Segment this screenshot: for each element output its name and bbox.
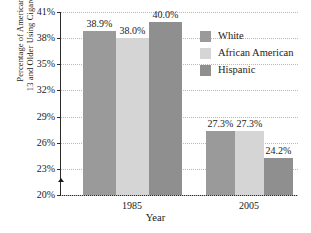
legend-swatch-white — [200, 31, 211, 42]
bar-label-1985-african-american: 38.0% — [120, 25, 146, 36]
ytick-38 — [57, 38, 61, 39]
ytick-35 — [57, 64, 61, 65]
ytick-label-26: 26% — [37, 138, 55, 148]
ytick-label-29: 29% — [37, 112, 55, 122]
y-axis-title-line1: Percentage of Americans — [15, 0, 25, 91]
bar-chart: Percentage of Americans 13 and Older Usi… — [0, 0, 311, 233]
ytick-label-23: 23% — [37, 164, 55, 174]
legend-item-african-american[interactable]: African American — [200, 47, 310, 59]
bar-label-1985-hispanic: 40.0% — [153, 9, 179, 20]
ytick-label-41: 41% — [37, 7, 55, 17]
ytick-label-38: 38% — [37, 33, 55, 43]
ytick-41 — [57, 12, 61, 13]
ytick-label-32: 32% — [37, 85, 55, 95]
ytick-32 — [57, 90, 61, 91]
y-axis-title: Percentage of Americans 13 and Older Usi… — [12, 0, 38, 123]
ytick-label-35: 35% — [37, 59, 55, 69]
bar-1985-hispanic[interactable]: 40.0% — [149, 22, 182, 195]
bar-2005-white[interactable]: 27.3% — [206, 131, 235, 195]
y-axis-title-line2: 13 and Older Using Cigarettes — [25, 0, 35, 91]
bar-label-2005-hispanic: 24.2% — [266, 145, 292, 156]
ytick-29 — [57, 117, 61, 118]
xtick-label-1985: 1985 — [122, 200, 142, 211]
legend-swatch-hispanic — [200, 65, 211, 76]
legend-label-african-american: African American — [218, 47, 294, 59]
bar-label-2005-white: 27.3% — [208, 118, 234, 129]
bar-2005-hispanic[interactable]: 24.2% — [264, 158, 293, 195]
plot-area: 41% 38% 35% 32% 29% 26% 23% 20% 38.9% 38… — [60, 12, 298, 196]
ytick-26 — [57, 143, 61, 144]
y-axis-break-icon — [58, 176, 65, 183]
xtick-label-2005: 2005 — [239, 200, 259, 211]
bar-label-2005-african-american: 27.3% — [237, 118, 263, 129]
ytick-label-20: 20% — [37, 190, 55, 200]
bar-1985-african-american[interactable]: 38.0% — [116, 38, 149, 195]
legend-item-hispanic[interactable]: Hispanic — [200, 64, 310, 76]
bar-2005-african-american[interactable]: 27.3% — [235, 131, 264, 195]
bar-1985-white[interactable]: 38.9% — [83, 31, 116, 195]
bar-label-1985-white: 38.9% — [87, 18, 113, 29]
legend-label-white: White — [218, 30, 244, 42]
legend-item-white[interactable]: White — [200, 30, 310, 42]
legend: White African American Hispanic — [200, 30, 310, 81]
x-axis-title: Year — [0, 212, 311, 223]
bar-group-1985: 38.9% 38.0% 40.0% 1985 — [83, 12, 182, 195]
gridline-20 — [61, 195, 298, 196]
ytick-23 — [57, 169, 61, 170]
legend-swatch-african-american — [200, 48, 211, 59]
legend-label-hispanic: Hispanic — [218, 64, 255, 76]
ytick-20 — [57, 195, 61, 196]
